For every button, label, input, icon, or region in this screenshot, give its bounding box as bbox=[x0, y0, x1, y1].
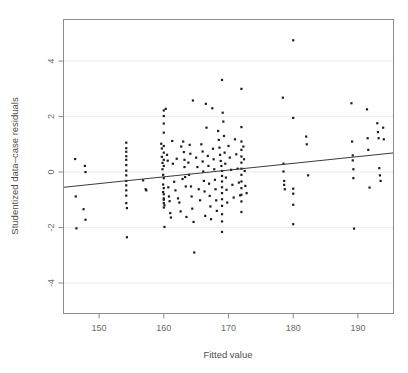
data-point bbox=[191, 195, 193, 197]
data-point bbox=[167, 160, 169, 162]
data-point bbox=[163, 165, 165, 167]
data-point bbox=[218, 147, 220, 149]
data-point bbox=[180, 210, 182, 212]
data-point bbox=[163, 187, 165, 189]
data-point bbox=[170, 216, 172, 218]
scatter-plot-figure: 150160170180190 420-2-4 Fitted value Stu… bbox=[0, 0, 408, 373]
data-point bbox=[173, 181, 175, 183]
data-point bbox=[181, 178, 183, 180]
data-point bbox=[216, 210, 218, 212]
data-point bbox=[209, 195, 211, 197]
data-point bbox=[378, 167, 380, 169]
data-point bbox=[210, 218, 212, 220]
data-point bbox=[190, 185, 192, 187]
data-point bbox=[204, 215, 206, 217]
data-point bbox=[240, 149, 242, 151]
data-point bbox=[195, 157, 197, 159]
data-point bbox=[199, 199, 201, 201]
data-point bbox=[191, 208, 193, 210]
data-point bbox=[74, 158, 76, 160]
data-point bbox=[367, 137, 369, 139]
data-point bbox=[207, 165, 209, 167]
data-point bbox=[163, 152, 165, 154]
data-point bbox=[215, 199, 217, 201]
data-point bbox=[196, 166, 198, 168]
data-point bbox=[352, 168, 354, 170]
data-point bbox=[176, 158, 178, 160]
data-point bbox=[307, 174, 309, 176]
data-point bbox=[234, 138, 236, 140]
data-point bbox=[125, 202, 127, 204]
data-point bbox=[145, 189, 147, 191]
data-point bbox=[126, 207, 128, 209]
data-point bbox=[244, 185, 246, 187]
data-point bbox=[202, 160, 204, 162]
data-point bbox=[233, 196, 235, 198]
data-point bbox=[202, 150, 204, 152]
data-point bbox=[126, 236, 128, 238]
data-point bbox=[240, 211, 242, 213]
data-point bbox=[221, 198, 223, 200]
data-point bbox=[163, 226, 165, 228]
data-point bbox=[240, 88, 242, 90]
data-point bbox=[192, 221, 194, 223]
x-tick-label: 170 bbox=[221, 323, 236, 333]
x-tick-label: 150 bbox=[92, 323, 107, 333]
data-point bbox=[165, 108, 167, 110]
data-point bbox=[183, 166, 185, 168]
data-point bbox=[84, 171, 86, 173]
data-point bbox=[163, 204, 165, 206]
data-point bbox=[180, 145, 182, 147]
data-point bbox=[193, 251, 195, 253]
data-point bbox=[189, 144, 191, 146]
data-point bbox=[125, 155, 127, 157]
data-point bbox=[217, 130, 219, 132]
data-point bbox=[163, 202, 165, 204]
data-point bbox=[198, 188, 200, 190]
data-point bbox=[221, 192, 223, 194]
data-point bbox=[224, 152, 226, 154]
data-point bbox=[240, 187, 242, 189]
data-point bbox=[163, 145, 165, 147]
data-point bbox=[125, 147, 127, 149]
data-point bbox=[162, 191, 164, 193]
data-point bbox=[203, 190, 205, 192]
data-point bbox=[211, 107, 213, 109]
data-point bbox=[125, 151, 127, 153]
data-point bbox=[242, 145, 244, 147]
data-point bbox=[214, 188, 216, 190]
data-point bbox=[227, 145, 229, 147]
data-point bbox=[221, 220, 223, 222]
data-point bbox=[218, 139, 220, 141]
data-point bbox=[200, 143, 202, 145]
data-point bbox=[203, 180, 205, 182]
data-point bbox=[243, 158, 245, 160]
data-point bbox=[163, 115, 165, 117]
data-point bbox=[162, 174, 164, 176]
data-point bbox=[161, 147, 163, 149]
data-point bbox=[352, 159, 354, 161]
data-point bbox=[222, 120, 224, 122]
data-point bbox=[177, 197, 179, 199]
data-point bbox=[222, 112, 224, 114]
data-point bbox=[163, 122, 165, 124]
data-point bbox=[221, 231, 223, 233]
data-point bbox=[163, 159, 165, 161]
data-point bbox=[352, 177, 354, 179]
data-point bbox=[219, 154, 221, 156]
data-point bbox=[225, 176, 227, 178]
data-point bbox=[246, 192, 248, 194]
y-tick-label: 2 bbox=[47, 114, 57, 119]
data-point bbox=[221, 180, 223, 182]
data-point bbox=[125, 174, 127, 176]
data-point bbox=[282, 97, 284, 99]
data-point bbox=[383, 138, 385, 140]
data-point bbox=[208, 183, 210, 185]
data-point bbox=[192, 99, 194, 101]
data-point bbox=[284, 188, 286, 190]
data-point bbox=[142, 179, 144, 181]
data-point bbox=[125, 189, 127, 191]
data-point bbox=[221, 175, 223, 177]
data-point bbox=[163, 206, 165, 208]
data-point bbox=[292, 204, 294, 206]
